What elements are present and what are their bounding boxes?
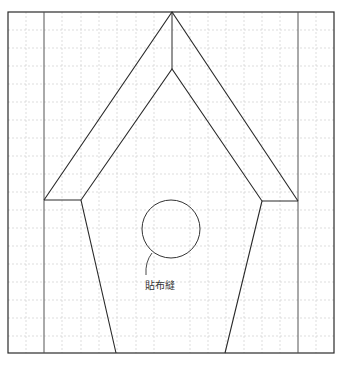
house-body-outline xyxy=(81,69,262,353)
applique-circle xyxy=(142,200,200,258)
birdhouse-block-diagram xyxy=(0,0,345,367)
applique-label: 貼布縫 xyxy=(145,277,175,292)
roof-outer xyxy=(44,12,298,201)
